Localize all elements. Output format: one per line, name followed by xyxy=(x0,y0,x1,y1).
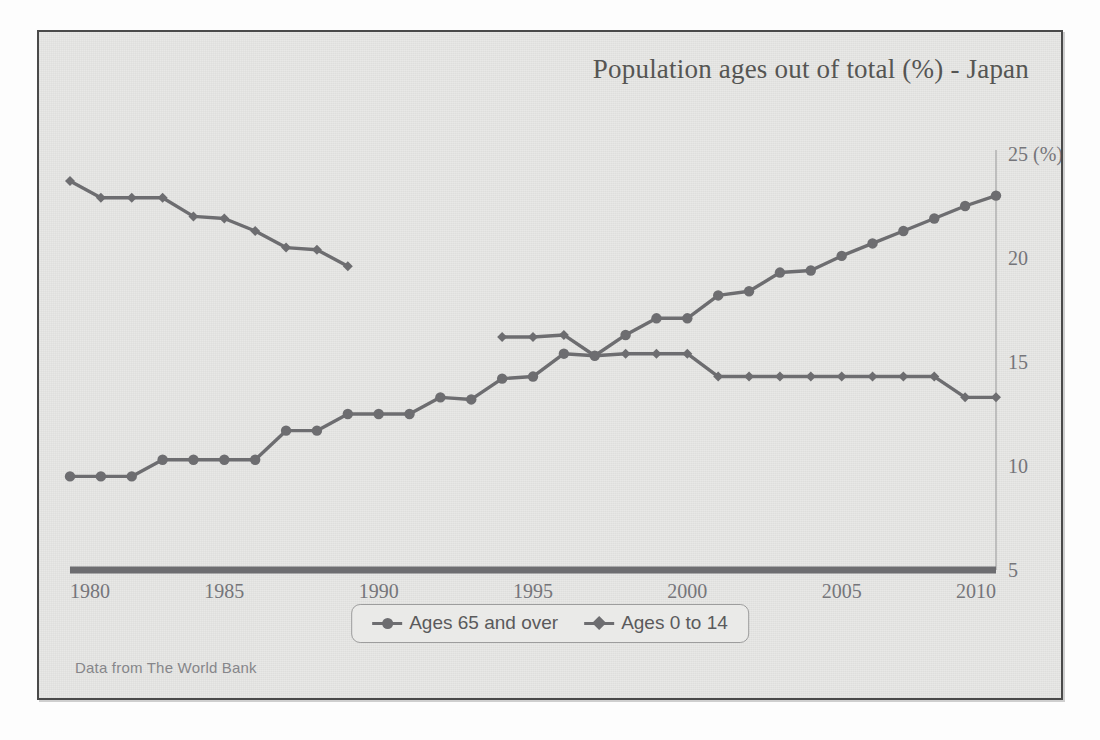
y-tick-label: 5 xyxy=(1008,559,1018,581)
data-point-marker xyxy=(651,349,661,359)
data-point-marker xyxy=(960,201,970,211)
data-point-marker xyxy=(373,409,383,419)
data-point-marker xyxy=(651,313,661,323)
data-point-marker xyxy=(898,226,908,236)
x-tick-label: 1985 xyxy=(204,580,244,602)
legend-label-ages-0-to-14: Ages 0 to 14 xyxy=(621,612,728,634)
data-point-marker xyxy=(466,394,476,404)
data-point-marker xyxy=(775,372,785,382)
data-point-marker xyxy=(219,213,229,223)
x-tick-label: 2000 xyxy=(667,580,707,602)
legend-item-ages-0-to-14[interactable]: Ages 0 to 14 xyxy=(584,612,728,634)
data-point-marker xyxy=(127,193,137,203)
data-point-marker xyxy=(621,349,631,359)
data-point-marker xyxy=(312,425,322,435)
data-point-marker xyxy=(806,265,816,275)
series-line-1 xyxy=(70,181,348,266)
data-point-marker xyxy=(837,372,847,382)
series-line-1 xyxy=(502,335,996,397)
y-tick-label: 20 xyxy=(1008,247,1028,269)
x-tick-label: 1995 xyxy=(513,580,553,602)
x-tick-label: 1980 xyxy=(70,580,110,602)
data-point-marker xyxy=(435,392,445,402)
data-point-marker xyxy=(806,372,816,382)
data-point-marker xyxy=(620,330,630,340)
data-point-marker xyxy=(868,372,878,382)
data-point-marker xyxy=(559,348,569,358)
data-point-marker xyxy=(528,371,538,381)
data-point-marker xyxy=(898,372,908,382)
data-point-marker xyxy=(219,455,229,465)
data-point-marker xyxy=(867,238,877,248)
data-point-marker xyxy=(281,425,291,435)
data-point-marker xyxy=(404,409,414,419)
legend-label-ages-65-and-over: Ages 65 and over xyxy=(409,612,558,634)
x-tick-label: 1990 xyxy=(359,580,399,602)
data-point-marker xyxy=(157,455,167,465)
data-point-marker xyxy=(713,290,723,300)
data-point-marker xyxy=(991,190,1001,200)
y-tick-label: 10 xyxy=(1008,455,1028,477)
y-tick-label: 15 xyxy=(1008,351,1028,373)
data-point-marker xyxy=(929,213,939,223)
data-point-marker xyxy=(991,392,1001,402)
data-point-marker xyxy=(744,372,754,382)
data-point-marker xyxy=(775,267,785,277)
legend-marker-circle-icon xyxy=(372,617,402,629)
data-point-marker xyxy=(528,332,538,342)
data-point-marker xyxy=(343,409,353,419)
legend-marker-diamond-icon xyxy=(584,617,614,629)
y-tick-label: 25 (%) xyxy=(1008,143,1061,166)
data-point-marker xyxy=(250,455,260,465)
data-point-marker xyxy=(682,313,692,323)
plot-area: 510152025 (%)198019851990199520002005201… xyxy=(39,32,1061,698)
data-point-marker xyxy=(497,373,507,383)
data-point-marker xyxy=(96,471,106,481)
x-tick-label: 2005 xyxy=(822,580,862,602)
data-point-marker xyxy=(65,471,75,481)
data-point-marker xyxy=(744,286,754,296)
source-note: Data from The World Bank xyxy=(75,659,257,676)
chart-legend[interactable]: Ages 65 and over Ages 0 to 14 xyxy=(351,604,749,643)
x-tick-label: 2010 xyxy=(956,580,996,602)
data-point-marker xyxy=(127,471,137,481)
data-point-marker xyxy=(836,251,846,261)
data-point-marker xyxy=(188,455,198,465)
data-point-marker xyxy=(497,332,507,342)
chart-figure: Population ages out of total (%) - Japan… xyxy=(37,30,1063,700)
legend-item-ages-65-and-over[interactable]: Ages 65 and over xyxy=(372,612,558,634)
page-root: Population ages out of total (%) - Japan… xyxy=(0,0,1100,740)
